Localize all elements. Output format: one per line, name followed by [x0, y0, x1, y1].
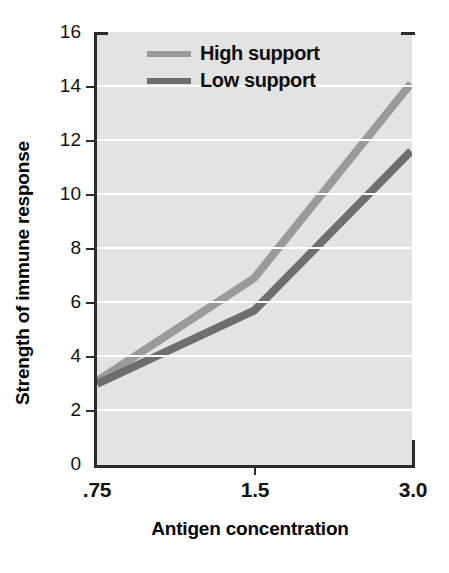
y-tick-label-4: 4 [41, 346, 81, 365]
legend-swatch-low-support [147, 78, 191, 84]
x-axis-right-cap [412, 440, 415, 468]
x-axis-title: Antigen concentration [60, 518, 440, 540]
y-tick-label-2: 2 [41, 400, 81, 419]
x-tick-label-3p0: 3.0 [368, 478, 449, 502]
y-tick-label-0: 0 [41, 454, 81, 473]
y-tick-label-8: 8 [41, 238, 81, 257]
y-tick-label-12: 12 [41, 130, 81, 149]
legend-label-high-support: High support [200, 42, 320, 65]
plot-area: High support Low support [97, 32, 412, 465]
legend-item-high-support: High support [147, 41, 320, 66]
legend-swatch-high-support [147, 51, 191, 57]
x-tick-mark-1p5 [254, 466, 256, 475]
plot-top-right-cap [401, 32, 415, 35]
x-tick-label-0p75: .75 [52, 478, 142, 502]
x-tick-label-1p5: 1.5 [210, 478, 300, 502]
y-tick-label-16: 16 [41, 22, 81, 41]
chart-figure: Strength of immune response 16 14 12 10 … [0, 0, 449, 573]
y-axis-top-cap [94, 32, 108, 35]
legend-item-low-support: Low support [147, 68, 320, 93]
y-axis-spine [94, 32, 97, 468]
y-tick-label-6: 6 [41, 292, 81, 311]
y-axis-title: Strength of immune response [4, 38, 42, 508]
series-lines [97, 32, 412, 465]
legend-label-low-support: Low support [200, 69, 316, 92]
legend: High support Low support [147, 41, 320, 93]
y-tick-label-10: 10 [41, 184, 81, 203]
series-line-high-support [97, 83, 411, 381]
y-tick-label-14: 14 [41, 76, 81, 95]
